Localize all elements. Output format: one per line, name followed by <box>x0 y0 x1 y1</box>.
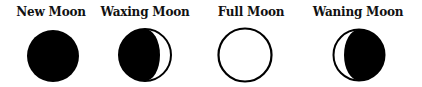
phase-waning-moon: Waning Moon <box>303 0 413 87</box>
phase-label: Waxing Moon <box>90 5 200 19</box>
phase-label: Full Moon <box>196 5 306 19</box>
full-moon-icon <box>216 27 274 85</box>
phase-label: Waning Moon <box>303 5 413 19</box>
waxing-moon-icon <box>116 27 174 85</box>
phase-full-moon: Full Moon <box>196 0 306 87</box>
phase-waxing-moon: Waxing Moon <box>90 0 200 87</box>
waning-moon-icon <box>330 27 388 85</box>
new-moon-icon <box>25 27 83 85</box>
